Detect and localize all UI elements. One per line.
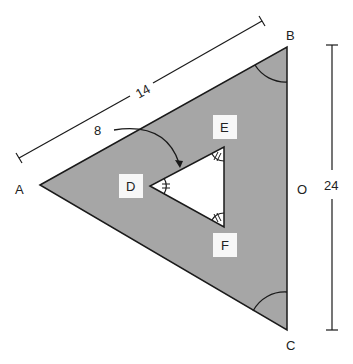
label-24: 24 [324, 178, 338, 193]
label-a: A [15, 182, 24, 197]
label-e: E [220, 120, 229, 135]
label-o: O [297, 182, 307, 197]
label-8: 8 [94, 123, 101, 138]
label-d: D [126, 179, 135, 194]
label-c: C [286, 338, 295, 353]
angle-arc-d [164, 178, 166, 194]
label-f: F [221, 238, 229, 253]
geometry-diagram: 14 24 8 A B C O D E F [0, 0, 353, 364]
label-14: 14 [133, 81, 153, 101]
label-b: B [286, 28, 295, 43]
